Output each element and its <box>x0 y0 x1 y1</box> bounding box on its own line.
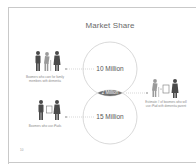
people-with-tablet-icon <box>39 100 61 120</box>
tablet-icon <box>47 106 53 113</box>
tablet-icon <box>163 85 169 93</box>
ipad-users-caption: Boomers who use iPads <box>24 124 66 128</box>
people-group-with-elderly-icon <box>36 51 61 71</box>
page-number: 10 <box>20 148 23 152</box>
elderly-tablet-person-icon <box>152 79 179 98</box>
venn-diagram <box>0 0 196 166</box>
caregivers-caption: Boomers who care for family members with… <box>24 75 66 83</box>
overlap-caption: Estimate # of boomers who will use iPad … <box>145 100 187 108</box>
top-circle-label: 10 Million <box>85 65 135 72</box>
bottom-circle-label: 15 Million <box>85 113 135 120</box>
intersection-label: 2 Million <box>95 90 125 95</box>
